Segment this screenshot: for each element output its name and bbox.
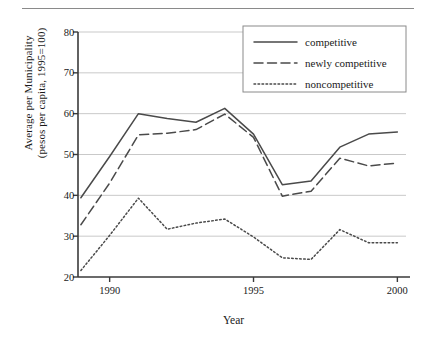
series-line-newly-competitive: [81, 114, 397, 225]
series-line-noncompetitive: [81, 198, 397, 270]
x-tick-label: 2000: [387, 285, 408, 296]
y-tick-label: 60: [64, 108, 75, 119]
y-tick-label: 30: [64, 231, 75, 242]
legend-label-newly-competitive: newly competitive: [305, 57, 387, 69]
y-tick-label: 50: [64, 149, 75, 160]
y-tick-label: 70: [64, 67, 75, 78]
x-axis-label: Year: [0, 314, 427, 326]
x-axis-label-text: Year: [223, 314, 244, 326]
x-tick-label: 1990: [99, 285, 120, 296]
legend-label-noncompetitive: noncompetitive: [305, 78, 374, 90]
y-tick-label: 80: [64, 27, 75, 38]
y-tick-label: 40: [64, 190, 75, 201]
x-tick-label: 1995: [243, 285, 264, 296]
legend-label-competitive: competitive: [305, 36, 357, 48]
plot-canvas: 20304050607080199019952000competitivenew…: [0, 0, 427, 339]
y-tick-label: 20: [64, 272, 75, 283]
chart-figure: Average per Municipality(pesos per capit…: [0, 0, 427, 339]
